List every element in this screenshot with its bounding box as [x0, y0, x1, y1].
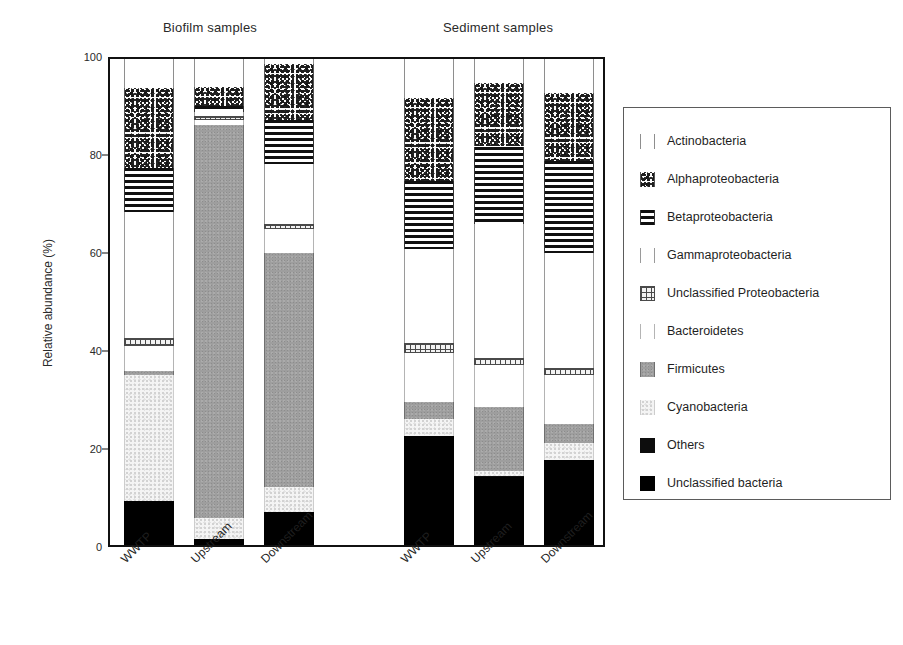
- legend-label: Betaproteobacteria: [667, 210, 773, 224]
- white-swatch-icon: [640, 134, 655, 149]
- y-tick-100: 100: [62, 51, 102, 63]
- legend-label: Others: [667, 438, 705, 452]
- bar-segment-cyanobacteria[interactable]: [124, 375, 174, 501]
- group-title-sediment: Sediment samples: [443, 20, 553, 35]
- legend-item-bacteroidetes[interactable]: Bacteroidetes: [640, 312, 882, 350]
- y-tick-40: 40: [62, 345, 102, 357]
- legend-label: Bacteroidetes: [667, 324, 743, 338]
- bar-segment-betaproteobacteria[interactable]: [544, 161, 594, 253]
- bar-sediment-downstream[interactable]: [544, 59, 594, 545]
- bar-segment-alphaproteobacteria[interactable]: [404, 98, 454, 181]
- legend-box: ActinobacteriaAlphaproteobacteriaBetapro…: [623, 107, 891, 500]
- cross-hatch-swatch-icon: [640, 286, 655, 301]
- bar-segment-bacteroidetes[interactable]: [544, 375, 594, 424]
- legend-list: ActinobacteriaAlphaproteobacteriaBetapro…: [640, 122, 882, 502]
- legend-label: Cyanobacteria: [667, 400, 748, 414]
- bar-segment-unclassified-proteobacteria[interactable]: [474, 358, 524, 365]
- bar-segment-actinobacteria[interactable]: [404, 59, 454, 98]
- group-title-biofilm: Biofilm samples: [163, 20, 257, 35]
- bar-segment-betaproteobacteria[interactable]: [124, 168, 174, 212]
- legend-item-cyanobacteria[interactable]: Cyanobacteria: [640, 388, 882, 426]
- bar-segment-gammaproteobacteria[interactable]: [404, 249, 454, 344]
- bar-segment-alphaproteobacteria[interactable]: [544, 93, 594, 161]
- horizontal-stripes-swatch-icon: [640, 210, 655, 225]
- bar-segment-betaproteobacteria[interactable]: [194, 106, 244, 112]
- solid-gray-swatch-icon: [640, 362, 655, 377]
- bar-segment-bacteroidetes[interactable]: [474, 365, 524, 407]
- legend-label: Firmicutes: [667, 362, 725, 376]
- bar-segment-alphaproteobacteria[interactable]: [474, 83, 524, 146]
- bar-segment-actinobacteria[interactable]: [264, 59, 314, 64]
- white-swatch-icon: [640, 248, 655, 263]
- bar-segment-unclassified-proteobacteria[interactable]: [404, 343, 454, 353]
- white-swatch-icon: [640, 324, 655, 339]
- solid-black-swatch-icon: [640, 476, 655, 491]
- plot-area: [108, 57, 605, 547]
- y-axis-ticks: 100 80 60 40 20 0: [58, 0, 102, 645]
- bar-sediment-upstream[interactable]: [474, 59, 524, 545]
- bar-segment-bacteroidetes[interactable]: [124, 346, 174, 371]
- bar-segment-cyanobacteria[interactable]: [544, 443, 594, 460]
- bar-segment-alphaproteobacteria[interactable]: [194, 87, 244, 105]
- stacked-bar-chart-figure: Biofilm samples Sediment samples Relativ…: [0, 0, 903, 645]
- bar-segment-bacteroidetes[interactable]: [404, 353, 454, 402]
- legend-label: Actinobacteria: [667, 134, 746, 148]
- legend-label: Unclassified Proteobacteria: [667, 286, 819, 300]
- bar-segment-gammaproteobacteria[interactable]: [124, 212, 174, 338]
- bar-segment-betaproteobacteria[interactable]: [264, 120, 314, 164]
- bar-segment-unclassified-bacteria[interactable]: [404, 436, 454, 545]
- bar-segment-unclassified-proteobacteria[interactable]: [124, 338, 174, 345]
- legend-label: Gammaproteobacteria: [667, 248, 791, 262]
- bar-segment-actinobacteria[interactable]: [474, 59, 524, 83]
- bar-segment-unclassified-proteobacteria[interactable]: [544, 368, 594, 375]
- dense-speckle-swatch-icon: [640, 172, 655, 187]
- y-tick-0: 0: [62, 541, 102, 553]
- legend-item-unclassified-proteobacteria[interactable]: Unclassified Proteobacteria: [640, 274, 882, 312]
- bar-segment-gammaproteobacteria[interactable]: [264, 164, 314, 225]
- bar-segment-bacteroidetes[interactable]: [264, 229, 314, 253]
- bar-segment-gammaproteobacteria[interactable]: [474, 224, 524, 358]
- bar-segment-betaproteobacteria[interactable]: [404, 181, 454, 249]
- bar-segment-actinobacteria[interactable]: [544, 59, 594, 93]
- legend-label: Alphaproteobacteria: [667, 172, 779, 186]
- legend-item-others[interactable]: Others: [640, 426, 882, 464]
- bar-segment-others[interactable]: [474, 476, 524, 477]
- bar-segment-firmicutes[interactable]: [264, 253, 314, 486]
- y-axis-title: Relative abundance (%): [41, 193, 55, 413]
- bar-segment-bacteroidetes[interactable]: [194, 120, 244, 125]
- legend-item-actinobacteria[interactable]: Actinobacteria: [640, 122, 882, 160]
- bar-segment-alphaproteobacteria[interactable]: [264, 64, 314, 120]
- y-tick-20: 20: [62, 443, 102, 455]
- bar-segment-gammaproteobacteria[interactable]: [544, 253, 594, 367]
- bar-segment-cyanobacteria[interactable]: [404, 419, 454, 436]
- light-speckle-swatch-icon: [640, 400, 655, 415]
- y-tick-80: 80: [62, 149, 102, 161]
- legend-item-alphaproteobacteria[interactable]: Alphaproteobacteria: [640, 160, 882, 198]
- bar-segment-cyanobacteria[interactable]: [474, 471, 524, 476]
- bar-segment-firmicutes[interactable]: [544, 424, 594, 443]
- legend-label: Unclassified bacteria: [667, 476, 782, 490]
- legend-item-firmicutes[interactable]: Firmicutes: [640, 350, 882, 388]
- bars-container: [110, 59, 603, 545]
- bar-segment-betaproteobacteria[interactable]: [474, 147, 524, 225]
- bar-segment-actinobacteria[interactable]: [124, 59, 174, 88]
- legend-item-unclassified-bacteria[interactable]: Unclassified bacteria: [640, 464, 882, 502]
- bar-segment-unclassified-proteobacteria[interactable]: [264, 224, 314, 229]
- y-tick-60: 60: [62, 247, 102, 259]
- bar-biofilm-wwtp[interactable]: [124, 59, 174, 545]
- bar-segment-gammaproteobacteria[interactable]: [194, 112, 244, 116]
- bar-sediment-wwtp[interactable]: [404, 59, 454, 545]
- solid-black-swatch-icon: [640, 438, 655, 453]
- bar-segment-actinobacteria[interactable]: [194, 59, 244, 87]
- bar-segment-firmicutes[interactable]: [474, 407, 524, 470]
- bar-segment-firmicutes[interactable]: [404, 402, 454, 419]
- bar-segment-firmicutes[interactable]: [194, 125, 244, 519]
- bar-segment-unclassified-proteobacteria[interactable]: [194, 116, 244, 120]
- legend-item-betaproteobacteria[interactable]: Betaproteobacteria: [640, 198, 882, 236]
- bar-biofilm-downstream[interactable]: [264, 59, 314, 545]
- bar-segment-alphaproteobacteria[interactable]: [124, 88, 174, 168]
- bar-segment-cyanobacteria[interactable]: [264, 487, 314, 512]
- bar-biofilm-upstream[interactable]: [194, 59, 244, 545]
- bar-segment-firmicutes[interactable]: [124, 371, 174, 375]
- legend-item-gammaproteobacteria[interactable]: Gammaproteobacteria: [640, 236, 882, 274]
